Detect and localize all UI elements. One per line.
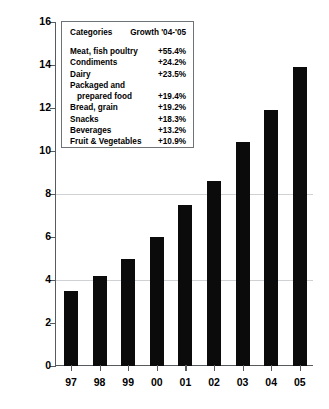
legend-growth-value: +10.9% — [158, 136, 186, 147]
bar — [178, 205, 192, 366]
x-tick-label: 98 — [86, 376, 114, 388]
bar — [64, 291, 78, 366]
legend-row: Condiments+24.2% — [70, 57, 186, 68]
legend-row: Bread, grain+19.2% — [70, 102, 186, 113]
x-tick-mark — [100, 365, 101, 371]
legend-growth-value: +23.5% — [158, 69, 186, 80]
legend-header: Categories Growth '04-'05 — [70, 28, 186, 37]
legend-table: Categories Growth '04-'05 Meat, fish pou… — [61, 21, 194, 148]
bar — [236, 142, 250, 366]
legend-category-label: Dairy — [70, 69, 90, 80]
legend-row: Meat, fish poultry+55.4% — [70, 46, 186, 57]
legend-row: Packaged and — [70, 80, 186, 91]
legend-category-label: Condiments — [70, 57, 117, 68]
legend-row: Beverages+13.2% — [70, 125, 186, 136]
x-tick-mark — [128, 365, 129, 371]
y-tick-label: 10 — [39, 144, 51, 156]
legend-row: prepared food+19.4% — [70, 91, 186, 102]
x-tick-mark — [271, 365, 272, 371]
y-tick-label: 4 — [45, 273, 51, 285]
y-tick-label: 6 — [45, 230, 51, 242]
x-tick-mark — [214, 365, 215, 371]
legend-row: Snacks+18.3% — [70, 114, 186, 125]
bar-chart: Total sales [$ Billion] 0246810121416 97… — [0, 0, 329, 409]
y-tick-label: 2 — [45, 316, 51, 328]
legend-rows: Meat, fish poultry+55.4%Condiments+24.2%… — [70, 46, 186, 148]
legend-category-label: Fruit & Vegetables — [70, 136, 141, 147]
legend-growth-value: +13.2% — [158, 125, 186, 136]
legend-category-label: prepared food — [70, 91, 132, 102]
legend-growth-value: +18.3% — [158, 114, 186, 125]
legend-category-label: Snacks — [70, 114, 99, 125]
x-tick-label: 03 — [229, 376, 257, 388]
x-tick-mark — [71, 365, 72, 371]
bar — [207, 181, 221, 366]
y-tick-label: 8 — [45, 187, 51, 199]
legend-header-growth: Growth '04-'05 — [130, 28, 186, 37]
x-tick-label: 97 — [57, 376, 85, 388]
x-tick-label: 05 — [286, 376, 314, 388]
legend-growth-value: +19.2% — [158, 102, 186, 113]
legend-growth-value: +24.2% — [158, 57, 186, 68]
legend-category-label: Bread, grain — [70, 102, 118, 113]
y-tick-label: 12 — [39, 101, 51, 113]
x-tick-label: 02 — [200, 376, 228, 388]
legend-growth-value: +55.4% — [158, 46, 186, 57]
bar — [264, 110, 278, 366]
y-tick-label: 0 — [45, 359, 51, 371]
legend-growth-value: +19.4% — [158, 91, 186, 102]
legend-header-categories: Categories — [70, 28, 112, 37]
x-tick-mark — [185, 365, 186, 371]
legend-row: Fruit & Vegetables+10.9% — [70, 136, 186, 147]
y-tick-label: 16 — [39, 15, 51, 27]
x-tick-label: 01 — [171, 376, 199, 388]
x-tick-label: 04 — [257, 376, 285, 388]
bar — [293, 67, 307, 366]
legend-category-label: Packaged and — [70, 80, 125, 91]
bar — [121, 259, 135, 367]
x-tick-label: 00 — [143, 376, 171, 388]
x-tick-label: 99 — [114, 376, 142, 388]
x-tick-mark — [300, 365, 301, 371]
legend-category-label: Meat, fish poultry — [70, 46, 138, 57]
bar — [93, 276, 107, 366]
x-tick-mark — [243, 365, 244, 371]
bar — [150, 237, 164, 366]
legend-category-label: Beverages — [70, 125, 111, 136]
legend-row: Dairy+23.5% — [70, 69, 186, 80]
x-tick-mark — [157, 365, 158, 371]
y-tick-label: 14 — [39, 58, 51, 70]
